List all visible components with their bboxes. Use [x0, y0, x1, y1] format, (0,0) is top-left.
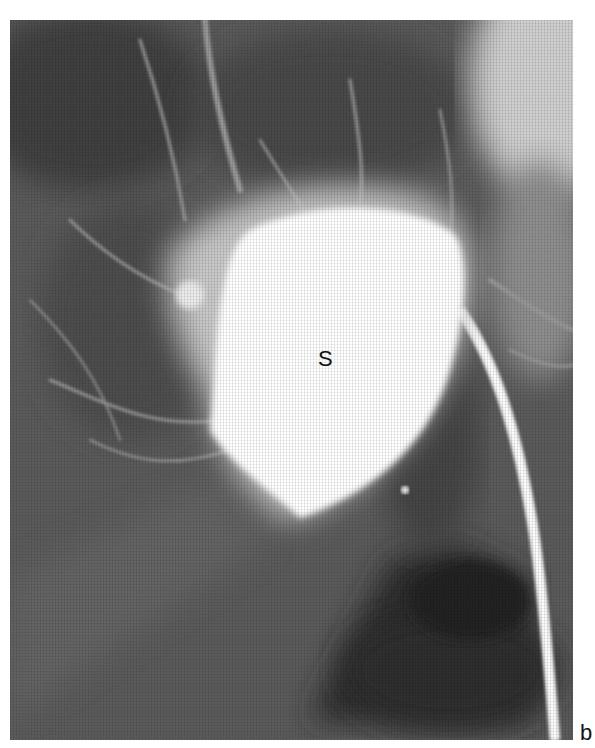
panel-label: b	[580, 722, 592, 744]
radiograph-image	[10, 20, 573, 740]
structure-label: S	[318, 348, 333, 370]
angiogram-drawing	[10, 20, 573, 740]
